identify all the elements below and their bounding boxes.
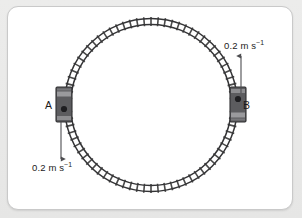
train-a-band	[57, 92, 71, 97]
train-a-lower-band	[57, 116, 71, 120]
velocity-label-b-exponent: −1	[256, 39, 264, 46]
velocity-label-b-value: 0.2 m s	[224, 40, 256, 51]
train-b-window-icon	[235, 96, 241, 102]
outer-rail	[65, 19, 238, 192]
figure-root: 0.2 m s−1 0.2 m s−1 A B	[0, 0, 302, 218]
velocity-label-b: 0.2 m s−1	[224, 41, 264, 51]
velocity-label-a: 0.2 m s−1	[32, 163, 72, 173]
train-b-roof-line	[231, 119, 245, 121]
train-a-label: A	[45, 100, 52, 111]
train-car-a	[56, 87, 72, 122]
train-a-window-icon	[61, 106, 67, 112]
train-a-roof-line	[57, 89, 71, 91]
inner-rail	[71, 25, 232, 186]
velocity-label-a-value: 0.2 m s	[32, 162, 64, 173]
train-b-band	[231, 113, 245, 118]
velocity-label-a-exponent: −1	[64, 161, 72, 168]
train-b-lower-band	[231, 89, 245, 93]
train-b-label: B	[243, 100, 250, 111]
railway-track	[63, 17, 239, 193]
